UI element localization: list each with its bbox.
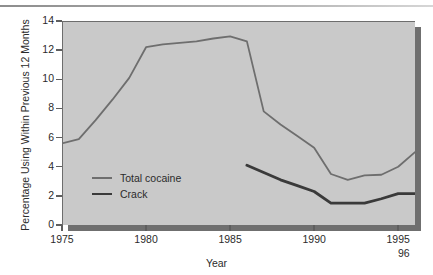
y-tick <box>56 49 62 51</box>
legend-swatch-crack <box>92 193 112 196</box>
x-tick-label: 1980 <box>124 233 168 245</box>
legend: Total cocaine Crack <box>92 170 181 202</box>
legend-item-crack: Crack <box>92 186 181 202</box>
x-tick-label: 1995 <box>376 233 420 245</box>
y-tick <box>56 20 62 22</box>
legend-label-crack: Crack <box>120 188 147 200</box>
y-tick <box>56 166 62 168</box>
y-tick <box>56 108 62 110</box>
chart-figure: 02468101214 19751980198519901995 96 Year… <box>0 0 433 275</box>
y-tick <box>56 195 62 197</box>
y-tick <box>56 79 62 81</box>
x-tick <box>145 225 147 231</box>
x-tick <box>313 225 315 231</box>
legend-label-total-cocaine: Total cocaine <box>120 172 181 184</box>
legend-swatch-total-cocaine <box>92 177 112 179</box>
x-tick <box>229 225 231 231</box>
series-line-total-cocaine <box>62 36 415 180</box>
y-axis-title: Percentage Using Within Previous 12 Mont… <box>19 5 31 245</box>
x-axis-title: Year <box>0 257 433 269</box>
x-tick-label: 1975 <box>40 233 84 245</box>
legend-item-total-cocaine: Total cocaine <box>92 170 181 186</box>
top-divider-rule <box>0 5 433 7</box>
x-tick <box>61 225 63 231</box>
x-tick <box>397 225 399 231</box>
x-tick-label: 1990 <box>292 233 336 245</box>
x-tick-label: 1985 <box>208 233 252 245</box>
y-tick <box>56 137 62 139</box>
